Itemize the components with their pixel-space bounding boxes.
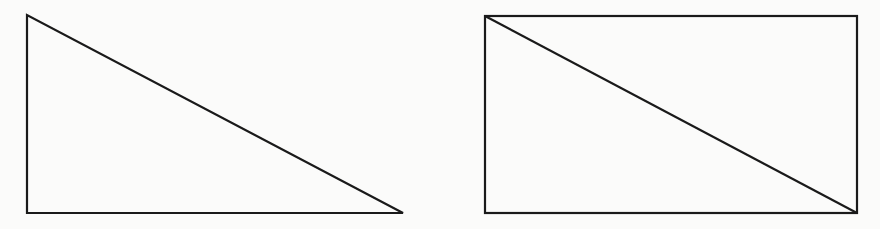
rectangle-diagonal <box>485 16 857 213</box>
geometry-diagram <box>0 0 880 229</box>
right-triangle <box>27 15 403 213</box>
